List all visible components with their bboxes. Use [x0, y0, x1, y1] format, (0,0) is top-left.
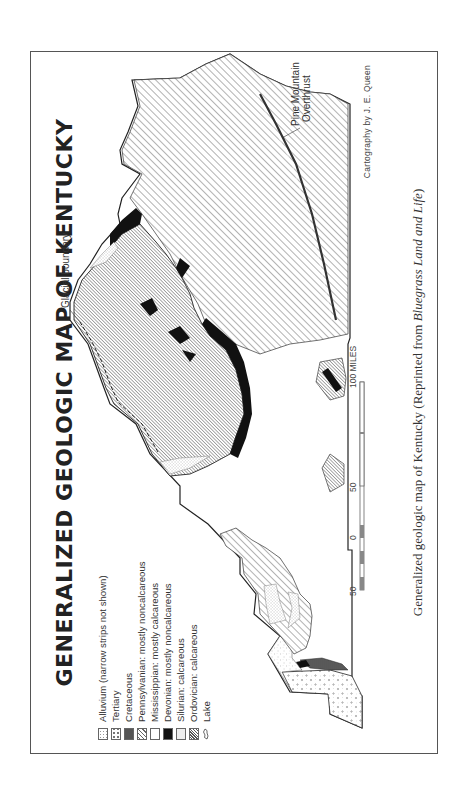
lake-icon — [201, 728, 212, 740]
legend-label: Alluvium (narrow strips not shown) — [97, 575, 108, 722]
legend-label: Devonian: mostly noncalcareous — [162, 583, 173, 722]
kentucky-geologic-map — [30, 51, 438, 754]
glacial-boundary-label: Glacial boundary — [60, 233, 71, 308]
caption-prefix: Generalized geologic map of Kentucky (Re… — [410, 321, 425, 616]
pine-mountain-label: Pine Mountain Overthrust — [290, 62, 312, 126]
legend-label: Mississippian: mostly calcareous — [149, 583, 160, 722]
legend-item-mississippian: Mississippian: mostly calcareous — [148, 561, 161, 740]
legend-label: Tertiary — [110, 691, 121, 722]
cretaceous-swatch-icon — [124, 728, 134, 740]
legend-item-devonian: Devonian: mostly noncalcareous — [161, 561, 174, 740]
pennsylvanian-swatch-icon — [137, 728, 147, 740]
legend-item-silurian: Silurian: calcareous — [174, 561, 187, 740]
legend-item-lake: Lake — [200, 561, 213, 740]
jackson-purchase-tertiary — [282, 670, 362, 728]
pine-mountain-label-line2: Overthrust — [301, 62, 312, 126]
legend-label: Ordovician: calcareous — [188, 624, 199, 722]
tertiary-swatch-icon — [111, 728, 121, 740]
alluvium-swatch-icon — [98, 728, 108, 740]
silurian-swatch-icon — [176, 728, 186, 740]
pine-mountain-label-line1: Pine Mountain — [290, 62, 301, 126]
legend-label: Lake — [201, 701, 212, 722]
scale-tick-50-west: 50 — [348, 587, 358, 596]
scale-bar — [360, 382, 364, 590]
legend-item-cretaceous: Cretaceous — [122, 561, 135, 740]
scale-tick-0: 0 — [348, 535, 358, 540]
legend-label: Cretaceous — [123, 673, 134, 722]
legend-item-ordovician: Ordovician: calcareous — [187, 561, 200, 740]
legend-item-pennsylvanian: Pennsylvanian: mostly noncalcareous — [135, 561, 148, 740]
ordovician-swatch-icon — [189, 728, 199, 740]
scale-tick-100-miles: 100 MILES — [348, 346, 358, 388]
devonian-swatch-icon — [163, 728, 173, 740]
rotated-map-page: GENERALIZED GEOLOGIC MAP OF KENTUCKY — [30, 51, 438, 754]
caption-source-title: Bluegrass Land and Life — [410, 193, 425, 321]
cartography-credit: Cartography by J. E. Queen — [362, 65, 372, 178]
legend-item-alluvium: Alluvium (narrow strips not shown) — [96, 561, 109, 740]
legend: Alluvium (narrow strips not shown) Terti… — [96, 561, 213, 740]
legend-item-tertiary: Tertiary — [109, 561, 122, 740]
figure-caption: Generalized geologic map of Kentucky (Re… — [410, 51, 426, 754]
legend-label: Pennsylvanian: mostly noncalcareous — [136, 561, 147, 722]
caption-suffix: ) — [410, 189, 425, 193]
legend-label: Silurian: calcareous — [175, 638, 186, 722]
scale-tick-50: 50 — [348, 483, 358, 492]
mississippian-swatch-icon — [150, 728, 160, 740]
